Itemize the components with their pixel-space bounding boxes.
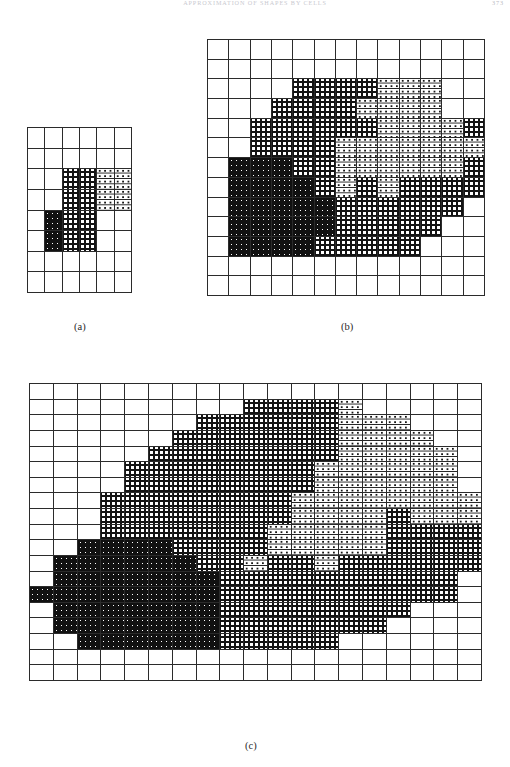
cell-texture-light [244, 556, 267, 571]
grid-cell [434, 665, 458, 681]
grid-cell [30, 540, 54, 556]
cell-texture-mid [251, 138, 271, 157]
grid-cell [272, 198, 293, 218]
grid-cell [244, 509, 268, 525]
cell-texture-dark [101, 556, 124, 571]
cell-texture-dark [125, 572, 148, 587]
grid-cell [387, 587, 411, 603]
cell-texture-mid [339, 603, 362, 618]
cell-texture-light [411, 509, 434, 524]
cell-texture-mid [315, 415, 338, 430]
cell-texture-mid [363, 556, 386, 571]
grid-cell [387, 462, 411, 478]
grid-cell [80, 231, 97, 252]
grid-cell [442, 60, 463, 80]
grid-cell [208, 257, 229, 277]
grid-cell [78, 556, 102, 572]
figure-c-caption: (c) [245, 740, 257, 751]
grid-cell [149, 665, 173, 681]
grid-cell [293, 60, 314, 80]
grid-cell [208, 40, 229, 60]
grid-cell [315, 257, 336, 277]
cell-texture-light [292, 493, 315, 508]
grid-cell [173, 447, 197, 463]
grid-cell [400, 158, 421, 178]
grid-cell [229, 158, 250, 178]
grid-cell [357, 276, 378, 296]
cell-texture-dark [149, 634, 172, 649]
cell-texture-mid [220, 603, 243, 618]
grid-cell [54, 587, 78, 603]
grid-cell [268, 603, 292, 619]
cell-texture-mid [387, 587, 410, 602]
cell-texture-mid [173, 462, 196, 477]
cell-texture-mid [220, 525, 243, 540]
grid-cell [125, 556, 149, 572]
grid-cell [125, 431, 149, 447]
grid-cell [315, 556, 339, 572]
grid-cell [339, 603, 363, 619]
grid-cell [339, 650, 363, 666]
grid-cell [101, 400, 125, 416]
cell-texture-mid [220, 572, 243, 587]
grid-cell [357, 60, 378, 80]
cell-texture-light [363, 478, 386, 493]
cell-texture-mid [442, 198, 462, 217]
grid-cell [421, 198, 442, 218]
cell-texture-mid [292, 634, 315, 649]
cell-texture-mid [411, 540, 434, 555]
cell-texture-light [115, 190, 131, 210]
cell-texture-mid [244, 493, 267, 508]
cell-texture-mid [63, 211, 79, 231]
grid-cell [197, 400, 221, 416]
grid-cell [54, 400, 78, 416]
grid-cell [268, 493, 292, 509]
cell-texture-mid [339, 556, 362, 571]
grid-cell [80, 149, 97, 170]
grid-cell [357, 198, 378, 218]
grid-cell [315, 119, 336, 139]
grid-cell [125, 509, 149, 525]
grid-cell [464, 40, 485, 60]
grid-cell [125, 478, 149, 494]
grid-cell [244, 587, 268, 603]
cell-texture-dark [78, 634, 101, 649]
cell-texture-mid [339, 572, 362, 587]
grid-cell [293, 158, 314, 178]
cell-texture-light [387, 462, 410, 477]
cell-texture-light [378, 138, 398, 157]
grid-cell [272, 119, 293, 139]
grid-cell [251, 198, 272, 218]
grid-cell [173, 415, 197, 431]
grid-cell [229, 198, 250, 218]
cell-texture-mid [220, 478, 243, 493]
grid-cell [149, 462, 173, 478]
cell-texture-light [378, 158, 398, 177]
grid-cell [80, 190, 97, 211]
grid-cell [400, 40, 421, 60]
grid-cell [378, 178, 399, 198]
grid-cell [78, 618, 102, 634]
grid-cell [411, 478, 435, 494]
grid-cell [220, 603, 244, 619]
grid-cell [229, 138, 250, 158]
grid-cell [336, 79, 357, 99]
cell-texture-mid [244, 478, 267, 493]
grid-cell [363, 462, 387, 478]
grid-cell [272, 40, 293, 60]
grid-cell [54, 509, 78, 525]
cell-texture-light [292, 525, 315, 540]
grid-cell [411, 587, 435, 603]
grid-cell [464, 198, 485, 218]
grid-cell [54, 572, 78, 588]
grid-cell [80, 252, 97, 273]
grid-cell [458, 650, 482, 666]
grid-cell [54, 665, 78, 681]
grid-cell [149, 618, 173, 634]
cell-texture-mid [411, 525, 434, 540]
grid-cell [272, 178, 293, 198]
grid-cell [149, 431, 173, 447]
grid-cell [208, 198, 229, 218]
cell-texture-mid [149, 525, 172, 540]
grid-cell [244, 634, 268, 650]
